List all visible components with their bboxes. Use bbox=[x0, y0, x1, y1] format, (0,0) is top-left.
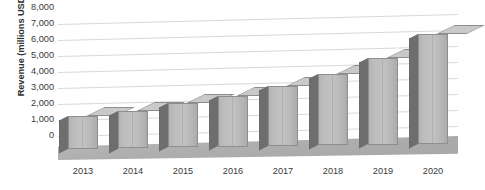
y-tick-label: 8,000 bbox=[31, 3, 54, 12]
bar-2017[interactable] bbox=[268, 86, 298, 146]
bar-front-face bbox=[218, 96, 248, 146]
bar-front-face bbox=[368, 58, 398, 144]
bar-side-face bbox=[109, 111, 118, 153]
y-tick-label: 3,000 bbox=[31, 83, 54, 92]
bar-front-face bbox=[68, 116, 98, 149]
bar-2016[interactable] bbox=[218, 96, 248, 146]
bar-body bbox=[418, 34, 448, 144]
bar-2018[interactable] bbox=[318, 74, 348, 145]
bar-front-face bbox=[418, 34, 448, 144]
y-axis-tick-labels: 8,000 7,000 6,000 5,000 4,000 3,000 2,00… bbox=[0, 0, 58, 190]
bar-2015[interactable] bbox=[168, 103, 198, 147]
y-tick-label: 7,000 bbox=[31, 19, 54, 28]
bar-series bbox=[58, 8, 458, 160]
x-tick-label: 2014 bbox=[108, 166, 158, 176]
y-tick-label: 4,000 bbox=[31, 67, 54, 76]
x-tick-label: 2018 bbox=[308, 166, 358, 176]
bar-side-face bbox=[309, 74, 318, 150]
bar-side-face bbox=[59, 116, 68, 153]
bar-side-face bbox=[209, 96, 218, 151]
bar-body bbox=[168, 103, 198, 147]
x-tick-label: 2015 bbox=[158, 166, 208, 176]
bar-body bbox=[218, 96, 248, 146]
bar-body bbox=[368, 58, 398, 144]
bar-front-face bbox=[268, 86, 298, 146]
bar-top-face bbox=[436, 25, 484, 34]
bar-side-face bbox=[359, 58, 368, 149]
bar-side-face bbox=[159, 103, 168, 151]
y-tick-label: 1,000 bbox=[31, 115, 54, 124]
x-tick-label: 2020 bbox=[408, 166, 458, 176]
bar-side-face bbox=[259, 86, 268, 150]
bar-side-face bbox=[409, 34, 418, 148]
y-tick-label: 2,000 bbox=[31, 99, 54, 108]
bar-front-face bbox=[318, 74, 348, 145]
bar-2019[interactable] bbox=[368, 58, 398, 144]
bar-2013[interactable] bbox=[68, 116, 98, 149]
bar-body bbox=[118, 111, 148, 149]
bar-2014[interactable] bbox=[118, 111, 148, 149]
bar-body bbox=[268, 86, 298, 146]
bar-body bbox=[68, 116, 98, 149]
bar-2020[interactable] bbox=[418, 34, 448, 144]
y-tick-label: 5,000 bbox=[31, 51, 54, 60]
bar-front-face bbox=[118, 111, 148, 149]
x-axis-tick-labels: 20132014201520162017201820192020 bbox=[58, 166, 458, 188]
y-tick-label: 0 bbox=[49, 131, 54, 140]
x-tick-label: 2017 bbox=[258, 166, 308, 176]
x-tick-label: 2013 bbox=[58, 166, 108, 176]
x-tick-label: 2016 bbox=[208, 166, 258, 176]
x-tick-label: 2019 bbox=[358, 166, 408, 176]
bar-front-face bbox=[168, 103, 198, 147]
plot-area bbox=[58, 8, 458, 160]
bar-body bbox=[318, 74, 348, 145]
y-tick-label: 6,000 bbox=[31, 35, 54, 44]
